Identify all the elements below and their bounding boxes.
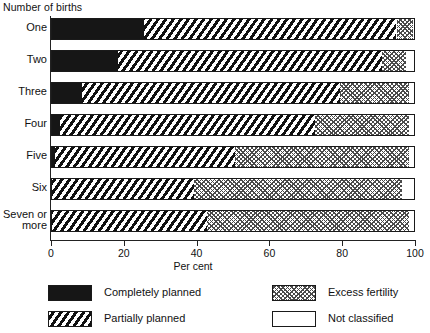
x-axis-title: Per cent: [0, 260, 430, 272]
bar-segment-notclass[interactable]: [406, 51, 415, 71]
legend-label-excess: Excess fertility: [328, 286, 398, 298]
bar-segment-partially[interactable]: [60, 115, 315, 135]
legend-swatch-completely-icon: [48, 285, 92, 301]
bar-segment-excess[interactable]: [207, 211, 409, 231]
category-label-7: Seven or more: [0, 209, 47, 232]
bar-segment-excess[interactable]: [340, 83, 409, 103]
bar-segment-partially[interactable]: [82, 83, 340, 103]
x-tick-label-100: 100: [395, 247, 430, 259]
bar-segment-notclass[interactable]: [402, 179, 415, 199]
bar-segment-partially[interactable]: [51, 179, 194, 199]
bar-segment-excess[interactable]: [194, 179, 401, 199]
legend-label-partially: Partially planned: [104, 312, 185, 324]
x-tick-label-40: 40: [177, 247, 217, 259]
stacked-bar-chart: Number of births 020406080100 OneTwoThre…: [0, 0, 430, 333]
bar-row[interactable]: [51, 210, 415, 232]
category-label-6: Six: [0, 182, 47, 194]
x-tick-label-0: 0: [31, 247, 71, 259]
legend-label-completely: Completely planned: [104, 286, 201, 298]
x-tick-40: [197, 241, 198, 246]
category-label-4: Four: [0, 118, 47, 130]
bar-segment-completely[interactable]: [51, 83, 82, 103]
x-tick-label-80: 80: [322, 247, 362, 259]
category-label-2: Two: [0, 54, 47, 66]
x-tick-100: [415, 241, 416, 246]
plot-area: [51, 16, 415, 240]
category-label-5: Five: [0, 150, 47, 162]
bar-row[interactable]: [51, 82, 415, 104]
bar-segment-notclass[interactable]: [409, 83, 414, 103]
bar-segment-excess[interactable]: [382, 51, 406, 71]
bar-segment-notclass[interactable]: [409, 211, 414, 231]
x-axis-title-text: Per cent: [173, 260, 212, 272]
x-tick-60: [269, 241, 270, 246]
bar-segment-excess[interactable]: [397, 19, 413, 39]
bar-segment-excess[interactable]: [315, 115, 410, 135]
x-tick-20: [124, 241, 125, 246]
x-tick-label-20: 20: [104, 247, 144, 259]
x-tick-80: [342, 241, 343, 246]
bar-row[interactable]: [51, 178, 415, 200]
bar-row[interactable]: [51, 50, 415, 72]
x-axis-line: [50, 240, 416, 241]
bar-row[interactable]: [51, 18, 415, 40]
bar-segment-completely[interactable]: [51, 51, 118, 71]
chart-legend: Completely plannedExcess fertilityPartia…: [0, 285, 430, 333]
legend-swatch-excess-icon: [272, 285, 316, 301]
bar-segment-completely[interactable]: [51, 19, 144, 39]
y-axis-title: Number of births: [3, 1, 82, 13]
bar-segment-notclass[interactable]: [409, 115, 414, 135]
bar-segment-excess[interactable]: [235, 147, 410, 167]
bar-segment-partially[interactable]: [51, 211, 207, 231]
bar-segment-notclass[interactable]: [409, 147, 414, 167]
bar-segment-completely[interactable]: [51, 115, 60, 135]
legend-label-notclass: Not classified: [328, 312, 393, 324]
category-label-1: One: [0, 22, 47, 34]
category-label-3: Three: [0, 86, 47, 98]
x-tick-0: [51, 241, 52, 246]
legend-swatch-partially-icon: [48, 311, 92, 327]
x-tick-label-60: 60: [249, 247, 289, 259]
bar-segment-notclass[interactable]: [413, 19, 415, 39]
bar-segment-partially[interactable]: [144, 19, 397, 39]
bar-row[interactable]: [51, 114, 415, 136]
legend-swatch-notclass-icon: [272, 311, 316, 327]
bar-row[interactable]: [51, 146, 415, 168]
bar-segment-partially[interactable]: [118, 51, 382, 71]
bar-segment-partially[interactable]: [55, 147, 234, 167]
